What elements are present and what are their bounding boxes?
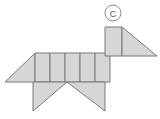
neck-rectangle [105, 27, 122, 56]
tangram-diagram: C [0, 0, 160, 119]
body-square-4 [80, 53, 95, 82]
body-square-2 [50, 53, 65, 82]
tangram-figure-container: C [0, 0, 160, 119]
label-letter: C [110, 9, 117, 19]
rear-leg-triangle [33, 82, 67, 111]
front-leg-triangle [67, 82, 105, 111]
tail-triangle [5, 53, 35, 82]
body-square-1 [35, 53, 50, 82]
body-square-5 [95, 53, 110, 82]
figure-label-marker: C [105, 5, 121, 21]
tangram-pieces-group [5, 27, 157, 111]
head-triangle [122, 27, 157, 56]
body-square-3 [65, 53, 80, 82]
